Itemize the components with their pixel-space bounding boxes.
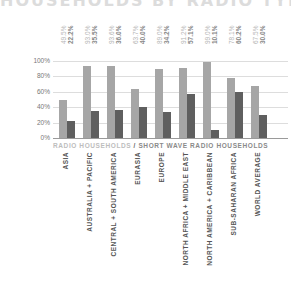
category-label: NORTH AMERICA + CARIBBEAN — [206, 152, 216, 302]
category-label: NORTH AFRICA + MIDDLE EAST — [182, 152, 192, 302]
category-label-text: CENTRAL + SOUTH AMERICA — [110, 152, 118, 257]
bar-radio-households — [107, 66, 115, 138]
value-label-text: 40.0% — [139, 26, 147, 44]
y-tick-label: 20% — [20, 119, 50, 126]
y-tick-label: 100% — [20, 57, 50, 64]
category-label-text: EUROPE — [158, 152, 166, 182]
bar-radio-households — [179, 68, 187, 138]
category-label: AUSTRALIA + PACIFIC — [86, 152, 96, 302]
category-label-text: SUB-SAHARAN AFRICA — [230, 152, 238, 236]
category-label-text: EURASIA — [134, 152, 142, 185]
value-label-shortwave: 22.2% — [68, 14, 78, 44]
bar-radio-households — [203, 62, 211, 138]
bar-shortwave-households — [163, 112, 171, 138]
y-tick-label: 80% — [20, 72, 50, 79]
bar-shortwave-households — [211, 130, 219, 138]
category-label-text: WORLD AVERAGE — [254, 152, 262, 216]
legend-shortwave-households: SHORT WAVE RADIO HOUSEHOLDS — [138, 142, 268, 149]
category-label: EURASIA — [134, 152, 144, 302]
value-label-text: 10.1% — [211, 26, 219, 44]
category-label: WORLD AVERAGE — [254, 152, 264, 302]
value-label-shortwave: 36.0% — [116, 14, 126, 44]
value-label-text: 60.2% — [235, 26, 243, 44]
bar-shortwave-households — [187, 94, 195, 138]
value-label-shortwave: 40.0% — [140, 14, 150, 44]
category-label-text: AUSTRALIA + PACIFIC — [86, 152, 94, 232]
value-label-shortwave: 34.2% — [164, 14, 174, 44]
y-tick-label: 40% — [20, 103, 50, 110]
bar-shortwave-households — [115, 110, 123, 138]
value-label-text: 35.5% — [91, 26, 99, 44]
value-label-text: 57.1% — [187, 26, 195, 44]
category-label-text: NORTH AMERICA + CARIBBEAN — [206, 152, 214, 266]
value-label-shortwave: 60.2% — [236, 14, 246, 44]
gridline — [53, 61, 288, 62]
value-label-text: 36.0% — [115, 26, 123, 44]
bar-radio-households — [59, 100, 67, 138]
category-label-text: ASIA — [62, 152, 70, 170]
category-label: CENTRAL + SOUTH AMERICA — [110, 152, 120, 302]
value-label-text: 30.0% — [259, 26, 267, 44]
bar-radio-households — [227, 78, 235, 138]
x-axis-line — [53, 138, 288, 139]
bar-shortwave-households — [91, 111, 99, 138]
value-label-shortwave: 10.1% — [212, 14, 222, 44]
bar-radio-households — [83, 66, 91, 138]
legend: RADIO HOUSEHOLDS / SHORT WAVE RADIO HOUS… — [53, 142, 268, 149]
category-label: EUROPE — [158, 152, 168, 302]
category-label: ASIA — [62, 152, 72, 302]
bar-radio-households — [131, 89, 139, 138]
bar-shortwave-households — [139, 107, 147, 138]
y-tick-label: 0% — [20, 134, 50, 141]
bar-shortwave-households — [235, 92, 243, 138]
bar-shortwave-households — [259, 115, 267, 138]
value-label-shortwave: 30.0% — [260, 14, 270, 44]
legend-radio-households: RADIO HOUSEHOLDS — [53, 142, 131, 149]
bar-shortwave-households — [67, 121, 75, 138]
value-label-shortwave: 57.1% — [188, 14, 198, 44]
category-label-text: NORTH AFRICA + MIDDLE EAST — [182, 152, 190, 265]
bar-radio-households — [155, 69, 163, 138]
value-label-shortwave: 35.5% — [92, 14, 102, 44]
chart-title: HOUSEHOLDS BY RADIO TYPE — [0, 0, 291, 10]
value-label-text: 22.2% — [67, 26, 75, 44]
y-tick-label: 60% — [20, 88, 50, 95]
value-label-text: 34.2% — [163, 26, 171, 44]
bar-radio-households — [251, 86, 259, 138]
category-label: SUB-SAHARAN AFRICA — [230, 152, 240, 302]
